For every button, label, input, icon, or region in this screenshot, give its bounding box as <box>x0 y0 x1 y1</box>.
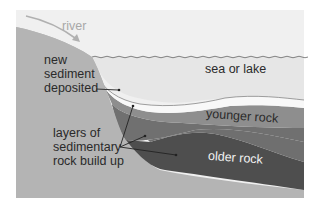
new-sediment-label-line3: deposited <box>44 81 98 95</box>
layers-label-line1: layers of <box>53 126 101 140</box>
layers-pointer-2-dot <box>144 135 147 138</box>
new-sediment-pointer-dot <box>118 89 121 92</box>
river-label: river <box>62 19 86 33</box>
layers-pointer-3-dot <box>175 154 178 157</box>
layers-label-line2: sedimentary <box>53 140 122 154</box>
new-sediment-label-line1: new <box>44 53 68 67</box>
new-sediment-label-line2: sediment <box>44 67 95 81</box>
sedimentary-rock-diagram: river sea or lake new sediment deposited… <box>0 0 321 206</box>
sea-label: sea or lake <box>205 62 266 76</box>
layers-label-line3: rock build up <box>53 154 124 168</box>
layers-pointer-1-dot <box>132 105 135 108</box>
